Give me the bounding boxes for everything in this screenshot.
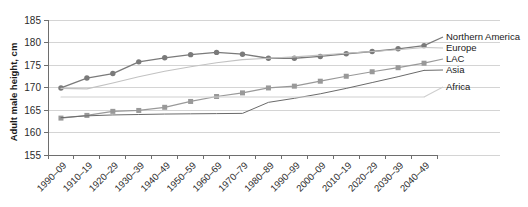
line-chart: 155160165170175180185 1990–091910–191920…	[0, 0, 528, 207]
legend-label-europe: Europe	[446, 42, 477, 53]
x-axis-ticks: 1990–091910–191920–291930–391940–491950–…	[34, 155, 437, 194]
y-tick-label: 160	[24, 127, 41, 138]
data-point-marker	[214, 50, 219, 55]
legend-label-northern-america: Northern America	[446, 31, 521, 42]
y-tick-label: 180	[24, 37, 41, 48]
y-tick-label: 185	[24, 15, 41, 26]
chart-legend: Northern AmericaEuropeLACAsiaAfrica	[424, 31, 521, 97]
legend-leader-line	[424, 47, 443, 48]
data-point-marker	[136, 59, 141, 64]
legend-leader-line	[424, 37, 443, 46]
legend-label-africa: Africa	[446, 81, 471, 92]
data-point-marker	[240, 52, 245, 57]
y-tick-label: 175	[24, 60, 41, 71]
data-series	[58, 43, 426, 121]
data-point-marker	[396, 65, 401, 70]
data-point-marker	[188, 52, 193, 57]
data-point-marker	[162, 105, 167, 110]
data-point-marker	[136, 108, 141, 113]
data-point-marker	[240, 90, 245, 95]
data-point-marker	[266, 85, 271, 90]
y-axis-title: Adult male height, cm	[8, 43, 19, 142]
data-point-marker	[318, 79, 323, 84]
data-point-marker	[292, 84, 297, 89]
y-tick-label: 170	[24, 82, 41, 93]
y-tick-label: 155	[24, 150, 41, 161]
data-point-marker	[162, 55, 167, 60]
legend-leader-line	[424, 87, 443, 97]
data-point-marker	[110, 71, 115, 76]
legend-label-lac: LAC	[446, 53, 465, 64]
data-point-marker	[370, 69, 375, 74]
data-point-marker	[110, 109, 115, 114]
y-axis-ticks: 155160165170175180185	[24, 15, 48, 161]
legend-label-asia: Asia	[446, 64, 465, 75]
y-tick-label: 165	[24, 105, 41, 116]
data-point-marker	[188, 99, 193, 104]
data-point-marker	[395, 46, 400, 51]
data-point-marker	[84, 75, 89, 80]
legend-leader-line	[424, 59, 443, 63]
chart-screenshot: 155160165170175180185 1990–091910–191920…	[0, 0, 528, 207]
data-point-marker	[344, 74, 349, 79]
